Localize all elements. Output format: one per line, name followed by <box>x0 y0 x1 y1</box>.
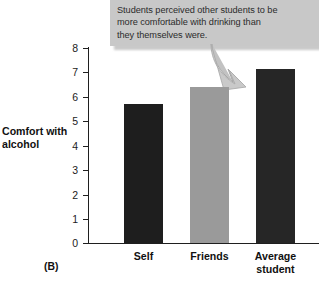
category-label-average-student-line1: Average <box>255 250 296 262</box>
category-label-self: Self <box>114 250 173 263</box>
category-label-friends: Friends <box>180 250 239 263</box>
panel-label: (B) <box>44 261 58 272</box>
y-tick-mark-0 <box>83 243 88 244</box>
category-label-average-student-line2: student <box>256 263 294 275</box>
bar-chart: 8 7 6 5 4 3 2 1 0 Self Friends Average s… <box>0 0 319 282</box>
bar-average-student <box>256 69 295 243</box>
bar-self <box>124 104 163 243</box>
y-axis-title: Comfort with alcohol <box>2 125 80 150</box>
bar-series <box>0 0 319 243</box>
bar-friends <box>190 87 229 243</box>
x-axis-line <box>88 243 319 244</box>
category-label-average-student: Average student <box>246 250 305 275</box>
